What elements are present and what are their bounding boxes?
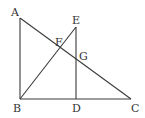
label-c: C xyxy=(131,102,139,115)
label-a: A xyxy=(10,6,20,19)
label-e: E xyxy=(72,14,80,27)
geometry-diagram: A E F G B D C xyxy=(0,0,145,118)
label-f: F xyxy=(55,36,63,49)
label-g: G xyxy=(79,50,88,63)
label-d: D xyxy=(72,102,81,115)
label-b: B xyxy=(13,102,21,115)
